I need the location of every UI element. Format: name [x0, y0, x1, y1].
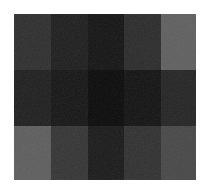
block-r1-c4	[124, 14, 161, 70]
block-r1-c3	[88, 14, 124, 70]
block-r2-c5	[161, 70, 196, 126]
block-r3-c2	[51, 126, 88, 180]
block-r3-c5	[161, 126, 196, 180]
block-r1-c5	[161, 14, 196, 70]
block-r2-c1	[14, 70, 51, 126]
block-r2-c2	[51, 70, 88, 126]
block-r2-c4	[124, 70, 161, 126]
image-canvas	[0, 0, 209, 194]
block-grid	[14, 14, 196, 180]
block-r1-c2	[51, 14, 88, 70]
block-r2-c3	[88, 70, 124, 126]
block-r3-c3	[88, 126, 124, 180]
block-r3-c1	[14, 126, 51, 180]
block-r3-c4	[124, 126, 161, 180]
block-r1-c1	[14, 14, 51, 70]
